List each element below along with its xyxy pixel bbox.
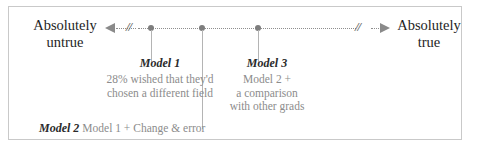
scale-anchor-right-line1: Absolutely	[397, 17, 461, 33]
axis-break-right: //	[355, 19, 360, 35]
axis-break-left: //	[126, 19, 131, 35]
axis-segment-right	[371, 28, 379, 29]
scale-anchor-left: Absolutely untrue	[23, 17, 107, 51]
annotation-model2-title: Model 2	[39, 121, 79, 135]
annotation-model3-line3: with other grads	[205, 100, 329, 114]
annotation-model3: Model 3 Model 2 + a comparison with othe…	[205, 57, 329, 114]
scale-anchor-right-line2: true	[390, 34, 468, 51]
annotation-model3-line1: Model 2 +	[205, 73, 329, 87]
scale-anchor-right: Absolutely true	[390, 17, 468, 51]
axis-segment-middle	[138, 28, 356, 29]
annotation-model2: Model 2Model 1 + Change & error	[39, 122, 205, 136]
figure-canvas: Absolutely untrue Absolutely true // //	[0, 0, 478, 152]
scale-anchor-left-line2: untrue	[23, 34, 107, 51]
figure-frame: Absolutely untrue Absolutely true // //	[8, 6, 462, 140]
annotation-model3-title: Model 3	[205, 57, 329, 71]
annotation-model2-description: Model 1 + Change & error	[82, 122, 205, 134]
scale-anchor-left-line1: Absolutely	[33, 17, 97, 33]
annotation-model3-line2: a comparison	[205, 87, 329, 101]
arrow-left-icon	[105, 23, 115, 33]
arrow-right-icon	[380, 23, 390, 33]
scale-axis: // //	[105, 21, 393, 37]
